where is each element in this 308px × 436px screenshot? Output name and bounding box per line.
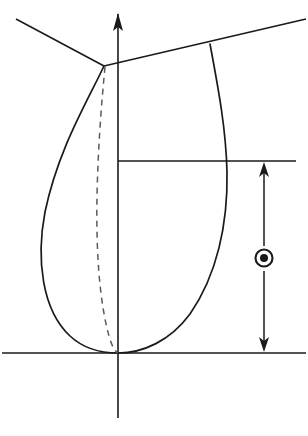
canvas-background [0, 0, 308, 436]
diagram-root [0, 0, 308, 436]
technical-diagram [0, 0, 308, 436]
circled-dot-center [260, 254, 268, 262]
circled-dot-icon [256, 250, 273, 267]
